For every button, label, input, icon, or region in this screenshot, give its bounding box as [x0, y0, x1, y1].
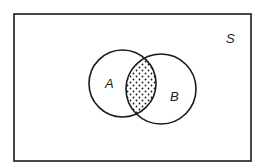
universe-label: S — [226, 31, 235, 46]
set-b-label: B — [170, 89, 179, 104]
set-a-label: A — [104, 76, 114, 91]
venn-diagram: A B S — [0, 0, 263, 168]
